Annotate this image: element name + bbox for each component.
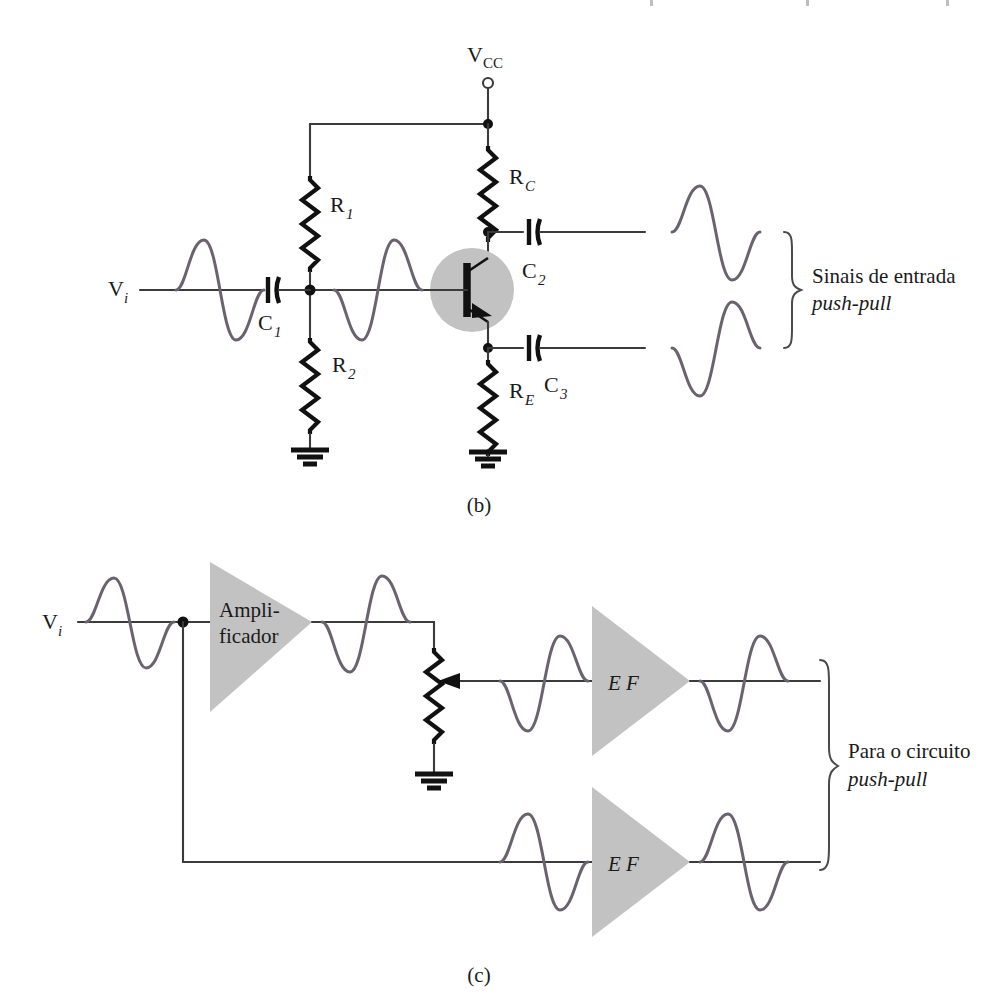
panel-c: V i Ampli- ficador: [42, 562, 970, 987]
annotation-b-line1: Sinais de entrada: [812, 264, 956, 288]
resistor-r1: [302, 176, 318, 272]
ef-bottom-triangle-shape: [592, 787, 690, 937]
ground-left: [291, 450, 329, 464]
waveform-emitter-b: [672, 302, 760, 396]
figure-root: V CC R 1 R 2: [0, 0, 1004, 1004]
resistor-re: [480, 360, 496, 456]
c3-label-sub: 3: [559, 386, 568, 402]
re-label-main: R: [509, 378, 524, 403]
rc-label-main: R: [509, 164, 524, 189]
vcc-terminal-icon: [483, 78, 493, 88]
r1-label-main: R: [330, 192, 345, 217]
panel-b: V CC R 1 R 2: [108, 42, 956, 517]
annotation-c-line1: Para o circuito: [848, 739, 970, 763]
c3-label-main: C: [544, 372, 559, 397]
vi-label-sub-c: i: [58, 623, 62, 639]
ef-bottom-label: E F: [607, 852, 639, 876]
r1-label-sub: 1: [346, 206, 354, 222]
circuit-diagram-svg: V CC R 1 R 2: [0, 0, 1004, 1004]
supply-vcc: V CC: [467, 42, 503, 124]
waveform-collector-b: [672, 186, 760, 280]
amplifier-label-line1: Ampli-: [219, 598, 280, 622]
ground-emitter: [469, 452, 507, 466]
ef-top-label: E F: [607, 671, 639, 695]
c2-label-main: C: [522, 258, 537, 283]
vi-label-main-c: V: [42, 609, 58, 634]
vi-label-main-b: V: [108, 276, 124, 301]
amplifier-label-line2: ficador: [219, 624, 278, 648]
c1-label-sub: 1: [274, 324, 282, 340]
annotation-b-line2: push-pull: [810, 291, 892, 315]
annotation-c-line2: push-pull: [846, 767, 928, 791]
waveform-pot-tap: [500, 636, 588, 731]
c1-label-main: C: [258, 310, 273, 335]
resistor-r2: [302, 338, 318, 434]
vi-label-sub-b: i: [124, 290, 128, 306]
waveform-ef-top-output: [700, 636, 788, 731]
potentiometer: [426, 648, 442, 744]
r2-label-sub: 2: [348, 366, 356, 382]
ef-top-triangle-shape: [592, 606, 690, 756]
r2-label-main: R: [332, 352, 347, 377]
brace-panel-b: [784, 232, 801, 348]
capacitor-c3: [529, 335, 540, 361]
block-ef-bottom: E F: [592, 787, 690, 937]
capacitor-c1: [268, 277, 279, 303]
brace-panel-c: [820, 660, 838, 870]
scan-artifacts: [650, 0, 949, 6]
block-ef-top: E F: [592, 606, 690, 756]
rc-label-sub: C: [525, 178, 536, 194]
caption-panel-b: (b): [467, 493, 492, 517]
transistor-q1: [430, 248, 514, 348]
block-amplifier: Ampli- ficador: [210, 562, 312, 712]
vcc-label-sub: CC: [483, 55, 503, 71]
re-label-sub: E: [524, 392, 534, 408]
c2-label-sub: 2: [538, 272, 546, 288]
vcc-label-main: V: [467, 42, 483, 67]
ground-potentiometer: [415, 774, 453, 788]
capacitor-c2: [529, 219, 540, 245]
waveform-amplifier-output: [322, 576, 410, 672]
caption-panel-c: (c): [467, 963, 490, 987]
